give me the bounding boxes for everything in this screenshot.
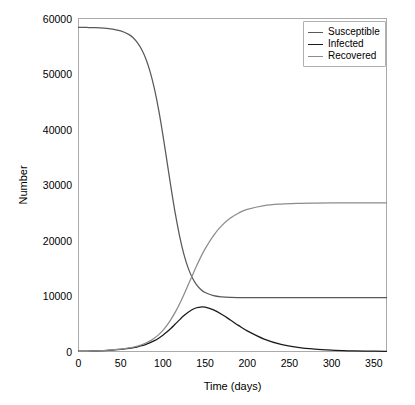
legend-line-swatch [308,32,323,33]
x-axis-tick-labels: 050100150200250300350 [0,358,415,374]
series-line [79,203,387,352]
legend-label: Infected [328,38,364,50]
legend-line-swatch [308,56,323,57]
x-tick-label: 300 [312,358,352,369]
x-axis-label: Time (days) [78,380,387,392]
x-tick-label: 50 [101,358,141,369]
legend-entry: Susceptible [308,26,380,38]
legend-entry: Infected [308,38,380,50]
legend-label: Susceptible [328,26,380,38]
x-tick-label: 150 [185,358,225,369]
series-line [79,27,387,297]
series-line [79,307,387,351]
data-curves [79,27,387,351]
x-tick-label: 250 [269,358,309,369]
x-tick-label: 350 [354,358,394,369]
legend-line-swatch [308,44,323,45]
x-tick-label: 100 [143,358,183,369]
legend-label: Recovered [328,50,376,62]
chart-legend: SusceptibleInfectedRecovered [303,21,386,67]
sir-model-chart-figure: Number 0100002000030000400005000060000 0… [0,0,415,405]
plot-frame [79,19,387,352]
x-tick-label: 0 [59,358,99,369]
x-tick-label: 200 [227,358,267,369]
legend-entry: Recovered [308,50,380,62]
